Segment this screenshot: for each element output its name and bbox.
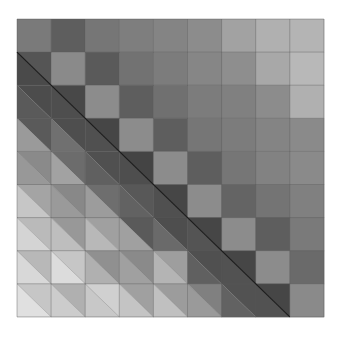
heatmap-cell: [188, 185, 223, 219]
heatmap-cell: [290, 218, 325, 252]
heatmap-cell: [188, 85, 223, 119]
heatmap-cell: [222, 218, 257, 252]
heatmap-cell: [256, 185, 291, 219]
heatmap-cell: [188, 151, 223, 185]
heatmap-cell: [290, 284, 325, 318]
heatmap-cell: [119, 52, 154, 86]
heatmap-cell: [222, 52, 257, 86]
heatmap-cell: [256, 52, 291, 86]
heatmap-cells: [17, 19, 324, 317]
heatmap-cell: [222, 185, 257, 219]
heatmap-cell: [290, 185, 325, 219]
heatmap-cell: [85, 85, 120, 119]
heatmap-cell: [290, 52, 325, 86]
heatmap-cell: [51, 52, 86, 86]
heatmap-cell: [85, 19, 120, 53]
heatmap-cell: [188, 19, 223, 53]
heatmap-cell: [51, 19, 86, 53]
heatmap-cell: [153, 85, 188, 119]
heatmap-cell: [222, 85, 257, 119]
heatmap-cell: [256, 85, 291, 119]
heatmap-cell: [119, 85, 154, 119]
heatmap-cell: [290, 251, 325, 285]
heatmap-cell: [119, 118, 154, 152]
heatmap-cell: [222, 151, 257, 185]
heatmap-cell: [222, 118, 257, 152]
heatmap-cell: [290, 118, 325, 152]
heatmap-cell: [153, 118, 188, 152]
heatmap-cell: [222, 19, 257, 53]
heatmap-cell: [153, 52, 188, 86]
heatmap-cell: [290, 19, 325, 53]
heatmap-cell: [119, 19, 154, 53]
heatmap-chart: [0, 0, 338, 337]
heatmap-cell: [256, 151, 291, 185]
heatmap-cell: [290, 85, 325, 119]
heatmap-cell: [85, 52, 120, 86]
heatmap-cell: [256, 19, 291, 53]
heatmap-cell: [256, 118, 291, 152]
heatmap-cell: [17, 19, 52, 53]
heatmap-cell: [256, 218, 291, 252]
heatmap-cell: [153, 151, 188, 185]
heatmap-cell: [188, 118, 223, 152]
heatmap-cell: [256, 251, 291, 285]
heatmap-cell: [188, 52, 223, 86]
heatmap-cell: [290, 151, 325, 185]
heatmap-cell: [153, 19, 188, 53]
